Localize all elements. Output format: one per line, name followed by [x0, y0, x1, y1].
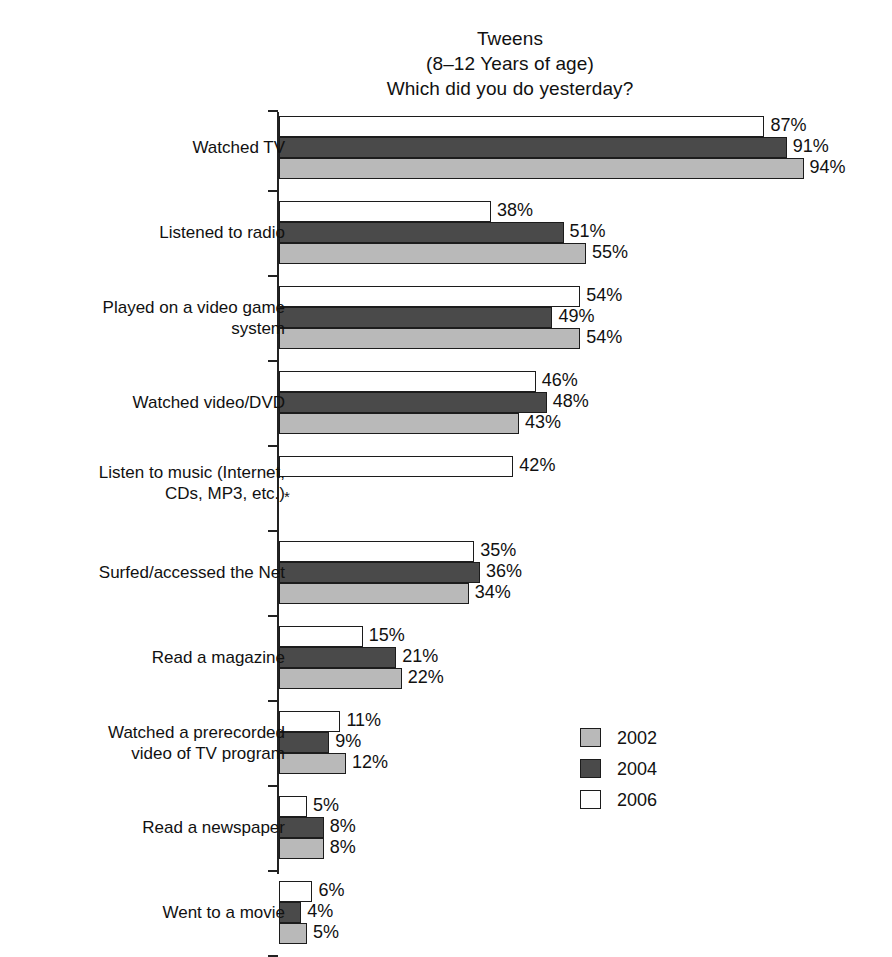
bar-value-label: 91%	[793, 136, 829, 157]
legend-label-2002: 2002	[617, 729, 657, 747]
bar-2002-8: 8%	[279, 838, 324, 859]
bar-value-label: 34%	[475, 582, 511, 603]
bar-2002-5: 34%	[279, 583, 469, 604]
bar-2006-2: 54%	[279, 286, 580, 307]
bar-rect	[279, 668, 402, 689]
bar-2006-3: 46%	[279, 371, 536, 392]
bar-rect	[279, 392, 547, 413]
bar-rect	[279, 413, 519, 434]
bar-rect	[279, 243, 586, 264]
legend-label-2004: 2004	[617, 760, 657, 778]
axis-tick-top	[268, 110, 278, 112]
bar-rect	[279, 817, 324, 838]
legend-item-2004: 2004	[580, 753, 657, 784]
bar-value-label: 48%	[553, 391, 589, 412]
axis-tick	[268, 530, 278, 532]
bar-rect	[279, 371, 536, 392]
bar-value-label: 21%	[402, 646, 438, 667]
bar-2006-8: 5%	[279, 796, 307, 817]
bar-rect	[279, 158, 804, 179]
bar-2002-7: 12%	[279, 753, 346, 774]
bar-rect	[279, 583, 469, 604]
bar-rect	[279, 838, 324, 859]
bar-value-label: 38%	[497, 200, 533, 221]
bar-value-label: 5%	[313, 795, 339, 816]
legend-swatch-2002-icon	[580, 728, 601, 747]
legend-item-2006: 2006	[580, 784, 657, 815]
bar-value-label: 43%	[525, 412, 561, 433]
axis-tick	[268, 700, 278, 702]
bar-rect	[279, 626, 363, 647]
bar-2004-1: 51%	[279, 222, 564, 243]
bar-2006-1: 38%	[279, 201, 491, 222]
bar-2004-8: 8%	[279, 817, 324, 838]
bar-2006-6: 15%	[279, 626, 363, 647]
title-line-3: Which did you do yesterday?	[300, 76, 720, 101]
bar-value-label: 11%	[346, 710, 381, 731]
bar-value-label: 55%	[592, 242, 628, 263]
bar-2002-2: 54%	[279, 328, 580, 349]
bar-value-label: 36%	[486, 561, 522, 582]
bar-rect	[279, 541, 474, 562]
category-label-5: Surfed/accessed the Net	[99, 562, 285, 583]
bar-value-label: 15%	[369, 625, 405, 646]
category-label-6: Read a magazine	[152, 647, 285, 668]
bar-rect	[279, 286, 580, 307]
chart-title: Tweens (8–12 Years of age) Which did you…	[300, 26, 720, 101]
bar-value-label: 12%	[352, 752, 388, 773]
bar-2004-3: 48%	[279, 392, 547, 413]
bar-value-label: 54%	[586, 327, 622, 348]
category-label-2: Played on a video game system	[103, 297, 285, 339]
bar-rect	[279, 796, 307, 817]
bar-2006-5: 35%	[279, 541, 474, 562]
bar-2004-5: 36%	[279, 562, 480, 583]
bar-rect	[279, 923, 307, 944]
bar-2002-0: 94%	[279, 158, 804, 179]
axis-tick	[268, 360, 278, 362]
legend-swatch-2004-icon	[580, 759, 601, 778]
bar-value-label: 87%	[770, 115, 806, 136]
axis-tick	[268, 785, 278, 787]
bar-rect	[279, 456, 513, 477]
bar-rect	[279, 201, 491, 222]
bar-rect	[279, 137, 787, 158]
bar-2002-9: 5%	[279, 923, 307, 944]
bar-rect	[279, 881, 312, 902]
bar-value-label: 46%	[542, 370, 578, 391]
bar-2002-3: 43%	[279, 413, 519, 434]
bar-value-label: 94%	[810, 157, 846, 178]
bar-rect	[279, 307, 552, 328]
bar-2004-6: 21%	[279, 647, 396, 668]
bar-value-label: 51%	[570, 221, 606, 242]
bar-2004-7: 9%	[279, 732, 329, 753]
title-line-1: Tweens	[300, 26, 720, 51]
category-label-8: Read a newspaper	[142, 817, 285, 838]
bar-value-label: 5%	[313, 922, 339, 943]
chart-legend: 2002 2004 2006	[580, 722, 657, 815]
bar-rect	[279, 222, 564, 243]
bar-value-label: 54%	[586, 285, 622, 306]
category-label-7: Watched a prerecorded video of TV progra…	[108, 722, 285, 764]
category-label-0: Watched TV	[192, 137, 285, 158]
axis-tick	[268, 870, 278, 872]
bar-value-label: 22%	[408, 667, 444, 688]
bar-value-label: 9%	[335, 731, 361, 752]
category-label-9: Went to a movie	[162, 902, 285, 923]
axis-tick	[268, 445, 278, 447]
bar-2004-2: 49%	[279, 307, 552, 328]
bar-value-label: 35%	[480, 540, 516, 561]
bar-value-label: 8%	[330, 837, 356, 858]
bar-2006-9: 6%	[279, 881, 312, 902]
category-label-3: Watched video/DVD	[133, 392, 285, 413]
bar-rect	[279, 116, 764, 137]
bar-value-label: 6%	[318, 880, 344, 901]
bar-value-label: 8%	[330, 816, 356, 837]
plot-area: 87%91%94%Watched TV38%51%55%Listened to …	[0, 112, 892, 882]
bar-value-label: 42%	[519, 455, 555, 476]
axis-tick	[268, 615, 278, 617]
category-label-1: Listened to radio	[159, 222, 285, 243]
axis-tick	[268, 275, 278, 277]
bar-2006-4: 42%	[279, 456, 513, 477]
bar-2002-1: 55%	[279, 243, 586, 264]
